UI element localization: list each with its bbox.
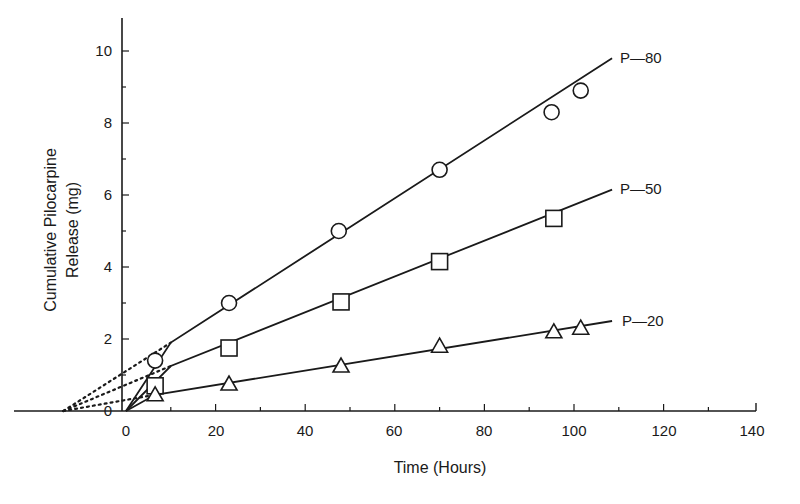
fit-line-p80	[126, 58, 612, 411]
x-tick-label: 60	[386, 422, 403, 439]
y-tick-label: 0	[104, 402, 112, 419]
release-chart: 0 2 4 6 8 10 0 20 40 60 80 100 120 140 T…	[0, 0, 800, 504]
y-axis-title-line1: Cumulative Pilocarpine	[42, 148, 59, 312]
fit-line-p50	[126, 190, 612, 411]
square-marker	[221, 340, 237, 356]
circle-marker	[432, 162, 447, 177]
triangle-marker	[432, 338, 448, 352]
circle-marker	[573, 83, 588, 98]
circle-marker	[331, 224, 346, 239]
y-axis-title-line2: Release (mg)	[64, 182, 81, 278]
square-marker	[432, 254, 448, 270]
square-marker	[333, 294, 349, 310]
series-label-p50: P—50	[620, 180, 662, 197]
circle-marker	[148, 353, 163, 368]
x-tick-label: 20	[208, 422, 225, 439]
x-tick-label: 100	[561, 422, 586, 439]
y-tick-label: 2	[104, 330, 112, 347]
x-tick-label: 120	[651, 422, 676, 439]
x-tick-label: 80	[476, 422, 493, 439]
square-marker	[546, 210, 562, 226]
y-tick-label: 8	[104, 114, 112, 131]
y-tick-label: 10	[95, 42, 112, 59]
plot-area	[14, 18, 756, 411]
x-tick-label: 0	[122, 422, 130, 439]
circle-marker	[222, 296, 237, 311]
series-label-p80: P—80	[620, 49, 662, 66]
y-tick-label: 4	[104, 258, 112, 275]
fit-line-p20	[126, 321, 612, 411]
x-tick-label: 40	[297, 422, 314, 439]
x-axis-title: Time (Hours)	[394, 459, 487, 476]
y-tick-label: 6	[104, 186, 112, 203]
x-tick-label: 140	[739, 422, 764, 439]
series-label-p20: P—20	[622, 312, 664, 329]
circle-marker	[544, 105, 559, 120]
